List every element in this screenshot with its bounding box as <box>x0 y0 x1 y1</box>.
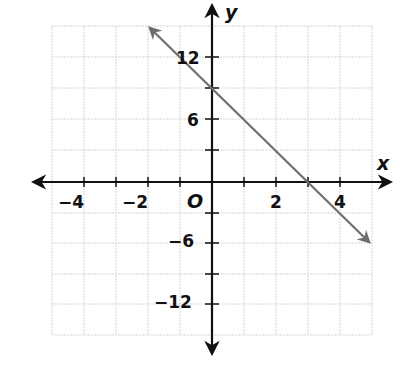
y-tick-label: 6 <box>187 110 199 130</box>
y-axis-label: y <box>225 1 239 23</box>
x-tick-label: 4 <box>334 192 346 212</box>
y-tick-label: −12 <box>154 292 192 312</box>
x-tick-label: −4 <box>58 192 84 212</box>
coordinate-plane: x y O −4 −2 2 4 12 6 −6 −12 <box>0 0 403 366</box>
x-tick-label: 2 <box>270 192 282 212</box>
y-tick-label: 12 <box>176 48 200 68</box>
x-axis-label: x <box>376 152 390 174</box>
x-tick-label: −2 <box>122 192 148 212</box>
y-tick-label: −6 <box>168 231 194 251</box>
origin-label: O <box>187 190 203 212</box>
